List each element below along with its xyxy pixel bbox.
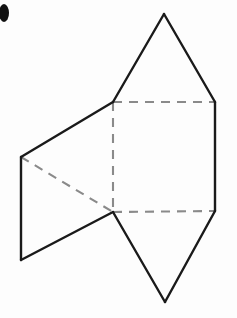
left-panel-diagonal-fold-line (21, 157, 113, 212)
left-panel-bottom-edge (21, 212, 113, 260)
page-edge-mark (0, 4, 9, 22)
net-diagram: Net of a triangular prism Line drawing o… (0, 0, 237, 318)
square-bottom-fold-line (113, 211, 215, 212)
left-panel-top-edge (21, 102, 113, 157)
top-triangle-right-edge (164, 14, 215, 102)
bottom-triangle-right-edge (165, 211, 215, 302)
figure-container: Net of a triangular prism Line drawing o… (0, 0, 237, 318)
bottom-triangle-left-edge (113, 212, 165, 302)
top-triangle-left-edge (113, 14, 164, 102)
